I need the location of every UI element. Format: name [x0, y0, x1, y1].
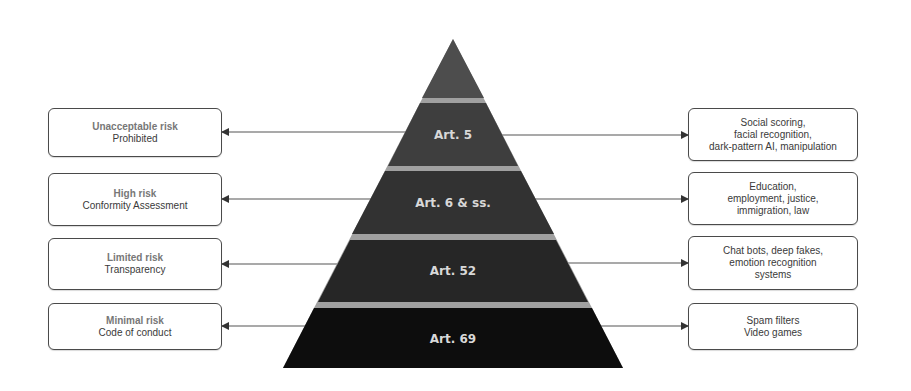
risk-title: High risk: [114, 188, 157, 200]
tier-label-art5: Art. 5: [434, 128, 472, 142]
example-line: immigration, law: [737, 205, 809, 217]
examples-box-unacceptable: Social scoring, facial recognition, dark…: [688, 108, 858, 161]
example-line: emotion recognition: [729, 257, 816, 269]
example-line: Education,: [749, 181, 796, 193]
examples-box-limited: Chat bots, deep fakes, emotion recogniti…: [688, 236, 858, 290]
risk-subtitle: Prohibited: [112, 133, 157, 145]
risk-subtitle: Transparency: [105, 264, 166, 276]
pyramid-tier-top: [422, 39, 484, 98]
risk-title: Minimal risk: [106, 315, 164, 327]
example-line: facial recognition,: [734, 129, 812, 141]
example-line: Chat bots, deep fakes,: [723, 245, 823, 257]
example-line: Social scoring,: [740, 117, 805, 129]
example-line: Spam filters: [747, 315, 800, 327]
example-line: Video games: [744, 327, 802, 339]
risk-box-unacceptable: Unacceptable risk Prohibited: [48, 108, 222, 157]
risk-title: Unacceptable risk: [92, 121, 178, 133]
example-line: dark-pattern AI, manipulation: [709, 141, 837, 153]
risk-subtitle: Conformity Assessment: [82, 200, 187, 212]
risk-box-high: High risk Conformity Assessment: [48, 173, 222, 226]
tier-label-art52: Art. 52: [430, 264, 476, 278]
tier-label-art6: Art. 6 & ss.: [415, 196, 491, 210]
risk-box-minimal: Minimal risk Code of conduct: [48, 303, 222, 350]
examples-box-high: Education, employment, justice, immigrat…: [688, 172, 858, 225]
risk-title: Limited risk: [107, 252, 163, 264]
risk-box-limited: Limited risk Transparency: [48, 238, 222, 290]
risk-subtitle: Code of conduct: [99, 327, 172, 339]
example-line: systems: [755, 269, 792, 281]
example-line: employment, justice,: [727, 193, 818, 205]
examples-box-minimal: Spam filters Video games: [688, 303, 858, 350]
tier-label-art69: Art. 69: [430, 332, 476, 346]
